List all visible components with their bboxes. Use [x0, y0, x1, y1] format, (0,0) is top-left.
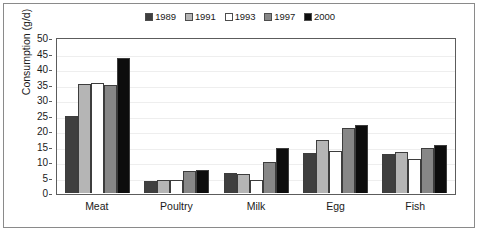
y-axis-tick-label: 10	[37, 158, 48, 168]
bar	[263, 162, 276, 193]
y-axis-tick-label: 50	[37, 34, 48, 44]
legend-item: 1989	[145, 12, 176, 21]
bar-group	[216, 40, 295, 193]
chart-legend: 19891991199319972000	[0, 12, 480, 21]
y-axis-tick-label: 20	[37, 127, 48, 137]
x-axis-tick-label: Poultry	[137, 200, 217, 212]
legend-item: 1993	[225, 12, 256, 21]
legend-label: 1997	[274, 12, 295, 21]
x-axis-labels: MeatPoultryMilkEggFish	[57, 200, 455, 212]
bar	[355, 125, 368, 193]
y-axis-tick-mark	[49, 148, 52, 149]
x-axis-tick-label: Milk	[216, 200, 296, 212]
y-axis-tick-label: 5	[42, 174, 48, 184]
bar	[342, 128, 355, 193]
y-axis-tick-label: 45	[37, 50, 48, 60]
y-axis-tick-mark	[49, 163, 52, 164]
bar	[104, 85, 117, 193]
legend-item: 1997	[264, 12, 295, 21]
bar-group	[137, 40, 216, 193]
bar-groups	[58, 40, 454, 193]
bar	[303, 153, 316, 193]
bar	[237, 174, 250, 193]
y-axis-tick-label: 40	[37, 65, 48, 75]
bar	[316, 140, 329, 193]
legend-label: 2000	[314, 12, 335, 21]
bar	[408, 159, 421, 193]
legend-item: 2000	[304, 12, 335, 21]
bar	[382, 154, 395, 193]
plot-area-wrapper	[56, 38, 456, 195]
legend-label: 1993	[235, 12, 256, 21]
y-axis-tick-label: 30	[37, 96, 48, 106]
bar	[250, 180, 263, 193]
x-axis-tick-label: Meat	[57, 200, 137, 212]
legend-swatch-icon	[264, 13, 272, 21]
bar	[183, 171, 196, 193]
chart-figure: 19891991199319972000 Consumption (g/d) 0…	[0, 0, 480, 233]
legend-label: 1989	[155, 12, 176, 21]
y-axis-ticks: 05101520253035404550	[20, 38, 52, 195]
x-axis-tick-label: Egg	[296, 200, 376, 212]
y-axis-tick-label: 35	[37, 81, 48, 91]
bar-group	[58, 40, 137, 193]
legend-swatch-icon	[145, 13, 153, 21]
bar	[91, 83, 104, 193]
bar	[78, 84, 91, 193]
y-axis-tick-label: 15	[37, 143, 48, 153]
bar	[157, 180, 170, 193]
bar-group	[296, 40, 375, 193]
y-axis-tick-mark	[49, 179, 52, 180]
bar	[421, 148, 434, 193]
bar	[434, 145, 447, 193]
x-axis-tick-label: Fish	[375, 200, 455, 212]
y-axis-tick-mark	[49, 39, 52, 40]
bar	[395, 152, 408, 193]
y-axis-tick-mark	[49, 117, 52, 118]
y-axis-tick-label: 0	[42, 189, 48, 199]
bar	[170, 180, 183, 193]
y-axis-tick-mark	[49, 70, 52, 71]
bar-group	[375, 40, 454, 193]
y-axis-tick-mark	[49, 101, 52, 102]
bar	[144, 181, 157, 193]
y-axis-tick-mark	[49, 194, 52, 195]
bar	[65, 116, 78, 193]
y-axis-tick-mark	[49, 132, 52, 133]
y-axis-tick-label: 25	[37, 112, 48, 122]
y-axis-tick-mark	[49, 55, 52, 56]
bar	[196, 170, 209, 193]
bar	[224, 173, 237, 193]
legend-swatch-icon	[304, 13, 312, 21]
legend-swatch-icon	[185, 13, 193, 21]
legend-label: 1991	[195, 12, 216, 21]
legend-swatch-icon	[225, 13, 233, 21]
bar	[329, 151, 342, 193]
legend-item: 1991	[185, 12, 216, 21]
y-axis-tick-mark	[49, 86, 52, 87]
bar	[117, 58, 130, 193]
bar	[276, 148, 289, 193]
plot-area	[56, 38, 456, 195]
